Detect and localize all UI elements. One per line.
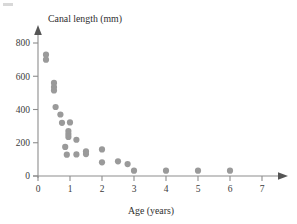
y-tick-label: 600 [16, 72, 31, 82]
y-axis-title: Canal length (mm) [48, 13, 122, 25]
corner-artifact [3, 3, 13, 6]
y-tick-label: 800 [16, 38, 31, 48]
x-tick-label: 3 [132, 184, 137, 194]
x-tick-label: 7 [260, 184, 265, 194]
data-point [65, 134, 71, 140]
x-tick-label: 5 [196, 184, 201, 194]
data-point [131, 168, 137, 174]
data-point [195, 168, 201, 174]
data-point [163, 168, 169, 174]
x-axis-title: Age (years) [128, 205, 174, 217]
x-axis [33, 172, 288, 180]
data-point [43, 57, 49, 63]
y-tick-label: 0 [25, 171, 30, 181]
data-point [59, 120, 65, 126]
data-point [125, 161, 131, 167]
x-tick-label: 2 [100, 184, 105, 194]
data-point [67, 119, 73, 125]
y-axis-ticks: 0200400600800 [16, 38, 38, 181]
data-point [99, 146, 105, 152]
data-point [73, 137, 79, 143]
data-point [73, 151, 79, 157]
data-point [83, 151, 89, 157]
data-point [227, 168, 233, 174]
y-tick-label: 400 [16, 105, 31, 115]
data-point [115, 158, 121, 164]
data-points-layer [43, 52, 233, 174]
x-axis-ticks: 01234567 [36, 176, 265, 194]
data-point [51, 87, 57, 93]
data-point [53, 104, 59, 110]
x-tick-label: 1 [68, 184, 73, 194]
x-tick-label: 0 [36, 184, 41, 194]
y-axis [34, 25, 42, 178]
x-tick-label: 6 [228, 184, 233, 194]
data-point [62, 144, 68, 150]
x-tick-label: 4 [164, 184, 169, 194]
plot-canvas: 0200400600800 01234567 Canal length (mm)… [0, 0, 297, 224]
y-tick-label: 200 [16, 138, 31, 148]
scatter-plot-figure: 0200400600800 01234567 Canal length (mm)… [0, 0, 297, 224]
data-point [64, 152, 70, 158]
data-point [57, 111, 63, 117]
data-point [99, 159, 105, 165]
